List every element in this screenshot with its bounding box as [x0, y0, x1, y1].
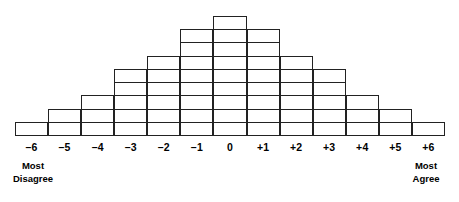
grid-cell[interactable] [114, 109, 147, 123]
x-axis-tick--5: –5 [48, 140, 81, 154]
grid-column-0 [213, 17, 246, 136]
grid-cell[interactable] [213, 69, 246, 83]
grid-cell[interactable] [379, 109, 412, 123]
x-axis-tick-labels: –6–5–4–3–2–10+1+2+3+4+5+6 [15, 140, 445, 158]
grid-cell[interactable] [180, 56, 213, 70]
grid-cell[interactable] [313, 109, 346, 123]
grid-column--5 [48, 110, 81, 136]
grid-cell[interactable] [247, 42, 280, 56]
grid-column-+5 [379, 110, 412, 136]
x-axis-tick--2: –2 [147, 140, 180, 154]
x-axis-tick--3: –3 [114, 140, 147, 154]
anchor-right-line2: Agree [393, 173, 459, 186]
grid-cell[interactable] [114, 69, 147, 83]
grid-cell[interactable] [313, 122, 346, 136]
grid-cell[interactable] [213, 95, 246, 109]
grid-cell[interactable] [15, 122, 48, 136]
grid-column--3 [114, 70, 147, 136]
anchor-label-most-disagree: Most Disagree [0, 160, 66, 185]
grid-cell[interactable] [346, 109, 379, 123]
grid-cell[interactable] [346, 122, 379, 136]
x-axis-tick--6: –6 [15, 140, 48, 154]
grid-cell[interactable] [346, 95, 379, 109]
grid-column--6 [15, 123, 48, 136]
grid-cell[interactable] [213, 82, 246, 96]
x-axis-tick-+4: +4 [346, 140, 379, 154]
x-axis-tick-+3: +3 [313, 140, 346, 154]
x-axis-tick--4: –4 [81, 140, 114, 154]
grid-cell[interactable] [379, 122, 412, 136]
anchor-right-line1: Most [393, 160, 459, 173]
grid-column--2 [147, 57, 180, 136]
grid-cell[interactable] [247, 95, 280, 109]
x-axis-tick-+2: +2 [280, 140, 313, 154]
grid-cell[interactable] [147, 56, 180, 70]
grid-cell[interactable] [280, 56, 313, 70]
grid-column-+1 [247, 30, 280, 136]
grid-cell[interactable] [213, 122, 246, 136]
grid-cell[interactable] [313, 82, 346, 96]
grid-cell[interactable] [280, 82, 313, 96]
grid-cell[interactable] [313, 69, 346, 83]
grid-cell[interactable] [280, 95, 313, 109]
grid-column-+6 [412, 123, 445, 136]
anchor-label-most-agree: Most Agree [393, 160, 459, 185]
grid-column-+2 [280, 57, 313, 136]
grid-cell[interactable] [213, 42, 246, 56]
x-axis-tick-+5: +5 [379, 140, 412, 154]
grid-cell[interactable] [48, 109, 81, 123]
grid-cell[interactable] [147, 109, 180, 123]
grid-cell[interactable] [247, 29, 280, 43]
grid-cell[interactable] [114, 95, 147, 109]
grid-cell[interactable] [81, 95, 114, 109]
grid-cell[interactable] [247, 109, 280, 123]
grid-cell[interactable] [247, 56, 280, 70]
x-axis-tick--1: –1 [180, 140, 213, 154]
distribution-grid [15, 8, 445, 136]
grid-cell[interactable] [180, 109, 213, 123]
grid-cell[interactable] [213, 56, 246, 70]
grid-column-+4 [346, 96, 379, 136]
grid-cell[interactable] [147, 69, 180, 83]
grid-cell[interactable] [180, 29, 213, 43]
grid-cell[interactable] [313, 95, 346, 109]
grid-cell[interactable] [247, 122, 280, 136]
grid-cell[interactable] [412, 122, 445, 136]
grid-cell[interactable] [180, 122, 213, 136]
grid-cell[interactable] [114, 122, 147, 136]
grid-cell[interactable] [180, 42, 213, 56]
grid-cell[interactable] [180, 69, 213, 83]
grid-column--4 [81, 96, 114, 136]
grid-cell[interactable] [81, 109, 114, 123]
grid-cell[interactable] [147, 95, 180, 109]
grid-cell[interactable] [213, 29, 246, 43]
grid-cell[interactable] [48, 122, 81, 136]
grid-cell[interactable] [280, 109, 313, 123]
x-axis-tick-+1: +1 [247, 140, 280, 154]
q-sort-distribution-figure: –6–5–4–3–2–10+1+2+3+4+5+6 Most Disagree … [0, 0, 459, 202]
grid-cell[interactable] [180, 95, 213, 109]
grid-cell[interactable] [147, 82, 180, 96]
anchor-left-line2: Disagree [0, 173, 66, 186]
x-axis-tick-0: 0 [213, 140, 246, 154]
grid-cell[interactable] [114, 82, 147, 96]
grid-cell[interactable] [247, 82, 280, 96]
grid-cell[interactable] [247, 69, 280, 83]
grid-cell[interactable] [213, 109, 246, 123]
grid-cell[interactable] [81, 122, 114, 136]
grid-column-+3 [313, 70, 346, 136]
x-axis-tick-+6: +6 [412, 140, 445, 154]
grid-cell[interactable] [280, 122, 313, 136]
grid-column--1 [180, 30, 213, 136]
grid-cell[interactable] [280, 69, 313, 83]
grid-cell[interactable] [213, 16, 246, 30]
anchor-left-line1: Most [0, 160, 66, 173]
grid-cell[interactable] [180, 82, 213, 96]
grid-cell[interactable] [147, 122, 180, 136]
